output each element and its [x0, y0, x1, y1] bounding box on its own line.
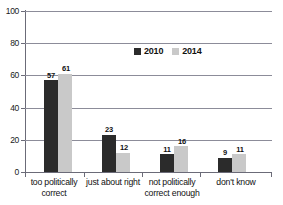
- bar-value-2010-2: 23: [97, 126, 121, 134]
- category-tick-4: [271, 172, 272, 177]
- bar-value-2014-3: 16: [170, 138, 194, 146]
- category-label-just-about-right: just about right: [83, 177, 143, 188]
- legend-swatch-icon-2010: [134, 48, 141, 55]
- legend-label-2010: 2010: [144, 47, 163, 56]
- legend: 2010 2014: [134, 47, 201, 56]
- category-label-not-politically-correct-enough: not politically correct enough: [139, 177, 205, 198]
- y-axis-label-60: 60: [0, 71, 19, 80]
- legend-item-2010: 2010: [134, 47, 163, 56]
- y-axis-label-80: 80: [0, 39, 19, 48]
- gridline-80: [25, 43, 272, 44]
- bar-value-2014-2: 12: [112, 144, 136, 152]
- y-axis-label-100: 100: [0, 7, 19, 16]
- bar-2010-just-about-right: [102, 135, 116, 172]
- y-axis-label-20: 20: [0, 136, 19, 145]
- category-label-dont-know: don't know: [203, 177, 269, 188]
- category-label-too-politically-correct: too politically correct: [22, 177, 86, 198]
- bar-chart: 100 80 60 40 20 0 57 61 23 12 11 16: [0, 0, 283, 205]
- legend-item-2014: 2014: [172, 47, 201, 56]
- bar-2014-just-about-right: [116, 153, 130, 172]
- bar-2010-not-politically-correct-enough: [160, 154, 174, 172]
- category-label-line-1: just about right: [83, 177, 143, 188]
- legend-label-2014: 2014: [182, 47, 201, 56]
- plot-area: 57 61 23 12 11 16 9 11: [25, 11, 272, 172]
- bar-2010-dont-know: [218, 158, 232, 173]
- category-label-line-1: don't know: [203, 177, 269, 188]
- bar-value-2014-1: 61: [54, 65, 78, 73]
- y-axis-label-40: 40: [0, 104, 19, 113]
- y-axis-label-0: 0: [0, 168, 19, 177]
- bar-2010-too-politically-correct: [44, 80, 58, 172]
- x-axis-line: [25, 172, 272, 173]
- bar-value-2014-4: 11: [228, 146, 252, 154]
- legend-swatch-icon-2014: [172, 48, 179, 55]
- category-label-line-1: too politically: [22, 177, 86, 188]
- category-label-line-1: not politically: [139, 177, 205, 188]
- gridline-100: [25, 11, 272, 12]
- category-label-line-2: correct: [22, 188, 86, 199]
- category-label-line-2: correct enough: [139, 188, 205, 199]
- bar-value-2010-1: 57: [39, 72, 63, 80]
- bar-value-2010-3: 11: [155, 146, 179, 154]
- bar-2014-too-politically-correct: [58, 74, 72, 172]
